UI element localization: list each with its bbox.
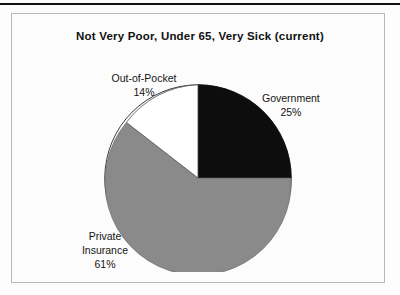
page-top-rule <box>0 3 400 5</box>
pie-label-out-of-pocket-name: Out-of-Pocket <box>112 72 177 84</box>
pie-label-private-insurance: Private Insurance 61% <box>61 229 149 271</box>
chart-title: Not Very Poor, Under 65, Very Sick (curr… <box>0 30 400 42</box>
pie-label-out-of-pocket: Out-of-Pocket 14% <box>94 71 194 99</box>
pie-label-government-name: Government <box>262 92 320 104</box>
pie-label-private-insurance-line1: Private <box>89 230 122 242</box>
pie-label-private-insurance-line2: Insurance <box>61 243 149 257</box>
pie-label-government-percent: 25% <box>262 105 320 119</box>
pie-label-private-insurance-percent: 61% <box>61 257 149 271</box>
pie-label-government: Government 25% <box>262 91 320 119</box>
pie-label-out-of-pocket-percent: 14% <box>94 85 194 99</box>
